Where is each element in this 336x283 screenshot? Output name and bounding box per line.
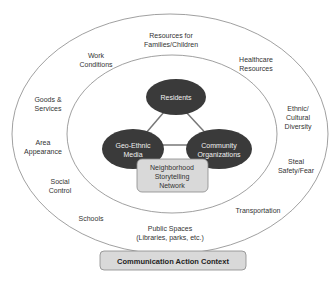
label-schools: Schools — [79, 214, 104, 223]
outer-ellipse — [12, 14, 328, 254]
label-goods-services: Goods &Services — [34, 95, 61, 113]
label-social-control: SocialControl — [49, 177, 72, 195]
label-work-conditions: WorkConditions — [79, 51, 112, 69]
label-context-box: Communication Action Context — [117, 257, 229, 266]
label-area-appearance: AreaAppearance — [24, 138, 62, 156]
label-public-spaces: Public Spaces(Libraries, parks, etc.) — [136, 224, 204, 242]
label-healthcare-resources: HealthcareResources — [239, 55, 273, 73]
label-steal-safety-fear: StealSafety/Fear — [278, 157, 314, 175]
label-residents: Residents — [160, 93, 191, 102]
label-community-organizations: CommunityOrganizations — [197, 141, 240, 159]
label-transportation: Transportation — [236, 206, 281, 215]
label-geo-ethnic-media: Geo-EthnicMedia — [115, 141, 150, 159]
label-resources-families: Resources forFamilies/Children — [144, 31, 198, 49]
label-network-box: NeighborhoodStorytellingNetwork — [150, 163, 194, 190]
label-ethnic-cultural-diversity: Ethnic/CulturalDiversity — [285, 104, 312, 131]
